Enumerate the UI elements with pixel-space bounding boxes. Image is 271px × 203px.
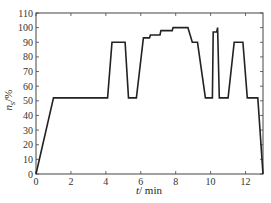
y-tick-label: 20	[23, 139, 33, 150]
x-tick-label: 10	[206, 176, 216, 187]
y-tick-label: 90	[23, 37, 33, 48]
y-tick-label: 10	[23, 154, 33, 165]
y-tick-label: 100	[18, 22, 33, 33]
y-axis-ticks: 0102030405060708090100110	[18, 8, 263, 180]
y-tick-label: 50	[23, 95, 33, 106]
y-tick-label: 0	[28, 169, 33, 180]
x-tick-label: 8	[173, 176, 178, 187]
y-tick-label: 80	[23, 51, 33, 62]
x-tick-label: 4	[103, 176, 108, 187]
y-tick-label: 70	[23, 66, 33, 77]
x-tick-label: 0	[34, 176, 39, 187]
x-axis-label: t/ min	[136, 184, 162, 196]
line-chart: 0102030405060708090100110 024681012 t/ m…	[0, 0, 271, 203]
y-axis-label: ns/%	[2, 90, 17, 111]
x-tick-label: 2	[68, 176, 73, 187]
y-tick-label: 40	[23, 110, 33, 121]
x-tick-label: 12	[241, 176, 251, 187]
y-tick-label: 110	[18, 8, 33, 19]
y-tick-label: 60	[23, 81, 33, 92]
y-tick-label: 30	[23, 125, 33, 136]
series-line-ns	[36, 28, 263, 174]
